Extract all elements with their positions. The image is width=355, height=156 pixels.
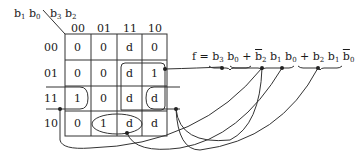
term-1: b3 b0 bbox=[212, 50, 239, 63]
term-2: b2 b1 b0 bbox=[255, 50, 297, 63]
plus-sign: + bbox=[300, 50, 309, 63]
boolean-equation: f = b3 b0 + b2 b1 b0 + b2 b1 b0 bbox=[192, 50, 354, 64]
kmap-diagram-lines bbox=[0, 0, 355, 156]
plus-sign: + bbox=[242, 50, 251, 63]
kmap-grid-border bbox=[65, 34, 167, 136]
equation-lhs: f bbox=[192, 50, 196, 63]
group-right-wrap bbox=[146, 87, 180, 109]
group-left-wrap bbox=[46, 87, 88, 109]
equals-sign: = bbox=[200, 50, 209, 63]
term-3: b2 b1 b0 bbox=[313, 50, 355, 63]
corner-diagonal bbox=[43, 10, 65, 34]
